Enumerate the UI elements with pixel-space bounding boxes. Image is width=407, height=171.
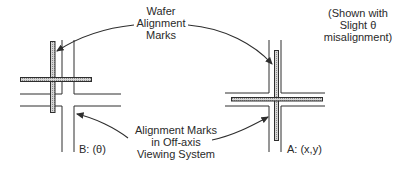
label-line: Alignment xyxy=(118,17,204,29)
viewing-system-b xyxy=(20,40,121,152)
system-a-label: A: (x,y) xyxy=(287,143,322,155)
label-line: misalignment) xyxy=(320,31,396,43)
label-line: Slight θ xyxy=(320,19,396,31)
system-b-label: B: (θ) xyxy=(79,143,106,155)
wafer-alignment-marks-label: Wafer Alignment Marks xyxy=(118,5,204,41)
label-line: in Off-axis xyxy=(128,136,224,148)
label-line: Alignment Marks xyxy=(128,124,224,136)
label-line: Wafer xyxy=(118,5,204,17)
wafer-mark-b xyxy=(21,42,92,113)
label-line: (Shown with xyxy=(320,7,396,19)
label-line: Viewing System xyxy=(128,148,224,160)
misalignment-note: (Shown with Slight θ misalignment) xyxy=(320,7,396,43)
leader-viewing-to-b xyxy=(77,114,128,138)
label-line: Marks xyxy=(118,29,204,41)
viewing-system-marks-label: Alignment Marks in Off-axis Viewing Syst… xyxy=(128,124,224,160)
wafer-mark-a xyxy=(232,51,323,141)
